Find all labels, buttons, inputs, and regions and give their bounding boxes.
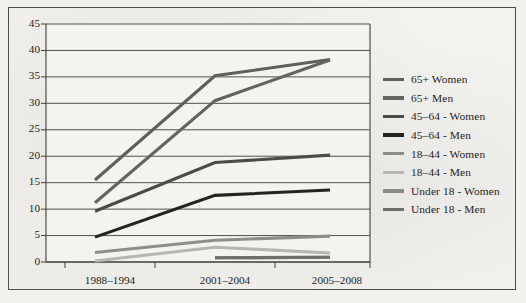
x-tick-label: 1988–1994 — [65, 274, 155, 286]
y-tick-label: 15 — [18, 175, 40, 187]
legend-item[interactable]: 45–64 - Men — [383, 126, 519, 145]
y-tick-label: 45 — [18, 17, 40, 29]
y-tick-label: 10 — [18, 202, 40, 214]
y-tick-label: 20 — [18, 149, 40, 161]
legend-swatch-icon — [383, 189, 404, 192]
legend-swatch-icon — [383, 96, 404, 99]
x-tick-marks — [46, 262, 370, 268]
legend-item[interactable]: 65+ Women — [383, 70, 519, 89]
legend-swatch-icon — [383, 133, 404, 136]
x-tick-label: 2001–2004 — [180, 274, 270, 286]
chart-figure: 454035302520151050 1988–19942001–2004200… — [0, 0, 526, 303]
y-tick-label: 30 — [18, 96, 40, 108]
legend-swatch-icon — [383, 171, 404, 174]
legend-swatch-icon — [383, 152, 404, 155]
legend-item[interactable]: Under 18 - Men — [383, 200, 519, 219]
y-tick-label: 35 — [18, 69, 40, 81]
x-tick-label: 2005–2008 — [292, 274, 382, 286]
legend-item[interactable]: Under 18 - Women — [383, 182, 519, 201]
legend-item-label: Under 18 - Men — [411, 203, 485, 215]
legend-item-label: 65+ Men — [411, 92, 453, 104]
legend-item[interactable]: 65+ Men — [383, 89, 519, 108]
series-line — [215, 257, 330, 258]
legend-item[interactable]: 45–64 - Women — [383, 107, 519, 126]
legend-item[interactable]: 18–44 - Women — [383, 144, 519, 163]
legend-swatch-icon — [383, 78, 404, 81]
legend-item[interactable]: 18–44 - Men — [383, 163, 519, 182]
y-tick-label: 0 — [18, 255, 40, 267]
legend-swatch-icon — [383, 115, 404, 118]
legend-item-label: 18–44 - Men — [411, 166, 471, 178]
y-tick-label: 5 — [18, 228, 40, 240]
y-tick-label: 25 — [18, 122, 40, 134]
y-tick-label: 40 — [18, 43, 40, 55]
legend-item-label: 45–64 - Men — [411, 129, 471, 141]
legend-item-label: Under 18 - Women — [411, 185, 500, 197]
legend-swatch-icon — [383, 208, 404, 211]
y-tick-marks — [41, 24, 46, 262]
legend-item-label: 65+ Women — [411, 73, 468, 85]
legend-item-label: 18–44 - Women — [411, 148, 485, 160]
legend-item-label: 45–64 - Women — [411, 110, 485, 122]
chart-legend: 65+ Women65+ Men45–64 - Women45–64 - Men… — [383, 70, 519, 219]
